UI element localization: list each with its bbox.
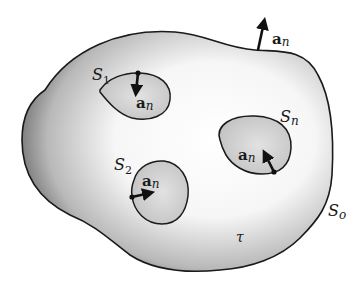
label-volume-tau: τ (236, 229, 244, 245)
label-normal-outer: an (272, 30, 289, 49)
diagram-canvas: an S1 an Sn an S2 an So τ (0, 0, 364, 291)
normal-arrow-outer (258, 22, 264, 50)
label-So: So (328, 201, 346, 222)
cavity-surface-S2 (132, 161, 189, 224)
surface-volume-diagram: an S1 an Sn an S2 an So τ (0, 0, 364, 291)
